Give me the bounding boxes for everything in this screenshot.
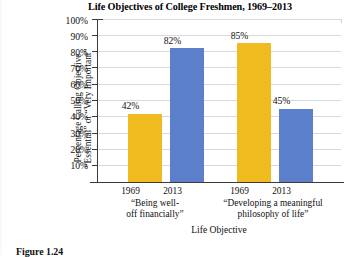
x-group-label-welloff: “Being well- off financially” [105,198,205,221]
x-tick-label-philosophy-2013: 2013 [264,186,299,197]
y-tick-label: 10% [48,161,88,171]
y-tick-label: 20% [48,145,88,155]
y-tick-label: 60% [48,80,88,90]
bar-value-philosophy-1969: 85% [222,31,257,41]
gridline [97,67,341,68]
bar-philosophy-1969[interactable] [237,43,271,182]
y-tick-label: 50% [48,96,88,106]
x-tick-label-welloff-2013: 2013 [155,186,190,197]
gridline [97,84,341,85]
y-tick-label: 40% [48,112,88,122]
bar-philosophy-2013[interactable] [279,109,313,182]
x-group-label-philosophy: “Developing a meaningful philosophy of l… [203,198,343,221]
x-axis-title: Life Objective [97,224,341,235]
figure-caption: Figure 1.24 [16,246,63,257]
bar-welloff-2013[interactable] [170,48,204,182]
y-axis-top-cap [97,19,103,20]
bar-value-philosophy-2013: 45% [264,96,299,106]
y-axis-line [97,19,98,183]
gridline [97,51,341,52]
bar-value-welloff-1969: 42% [113,101,148,111]
gridline [97,19,341,20]
x-tick-label-philosophy-1969: 1969 [222,186,257,197]
x-group-label-philosophy-line1: “Developing a meaningful [203,198,343,209]
x-group-label-welloff-line2: off financially” [105,209,205,220]
chart-title: Life Objectives of College Freshmen, 196… [30,1,350,13]
plot-right-edge [341,19,342,23]
y-tick-label: 80% [48,48,88,58]
x-group-label-philosophy-line2: philosophy of life” [203,209,343,220]
gridline [97,35,341,36]
x-tick-label-welloff-1969: 1969 [113,186,148,197]
x-group-label-welloff-line1: “Being well- [105,198,205,209]
y-tick-label: 100% [48,16,88,26]
bar-value-welloff-2013: 82% [155,36,190,46]
y-tick-label: 30% [48,129,88,139]
y-tick-label: 90% [48,32,88,42]
x-axis-line [90,182,344,183]
scan-edge [0,0,3,255]
y-tick-label: 70% [48,64,88,74]
bar-welloff-1969[interactable] [128,114,162,183]
